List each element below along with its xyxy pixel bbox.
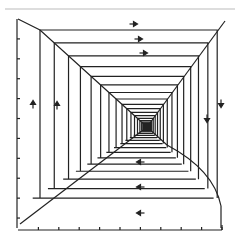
center-point [143,123,151,131]
arrow-right-icon [130,22,138,27]
arrow-down-icon [205,115,210,123]
diagonal-top-right [147,21,225,127]
arrow-up-icon [31,101,36,109]
diagram-canvas [0,0,240,245]
arrow-left-icon [137,211,145,216]
frame-level-5 [87,76,183,164]
arrow-down-icon [219,100,224,108]
arrow-right-icon [140,51,148,56]
spiral-phase-diagram [0,0,240,245]
nested-frames [18,19,225,228]
diagonal-bottom-left [20,127,147,224]
frame-level-4 [76,67,191,172]
arrow-up-icon [55,102,60,110]
frame-level-1 [33,30,218,198]
arrow-right-icon [135,37,143,42]
diagonal-top-left [18,19,147,127]
